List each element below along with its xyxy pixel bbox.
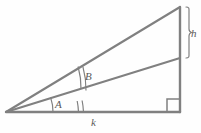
geometry-figure: A B k h bbox=[0, 0, 201, 133]
angle-a-label: A bbox=[55, 99, 62, 110]
angle-b-arc-inner-icon bbox=[78, 67, 81, 90]
right-angle-marker-icon bbox=[167, 99, 180, 112]
cevian-line-segment bbox=[6, 58, 180, 112]
figure-drawing bbox=[0, 0, 201, 133]
angle-b-arc-lower-outer-icon bbox=[82, 101, 83, 113]
angle-b-label: B bbox=[85, 71, 92, 82]
angle-a-arc-icon bbox=[51, 97, 53, 112]
height-segment-label: h bbox=[191, 28, 197, 39]
upper-hypotenuse-segment bbox=[6, 7, 180, 112]
angle-b-arc-lower-inner-icon bbox=[77, 101, 78, 112]
base-length-label: k bbox=[91, 117, 96, 128]
